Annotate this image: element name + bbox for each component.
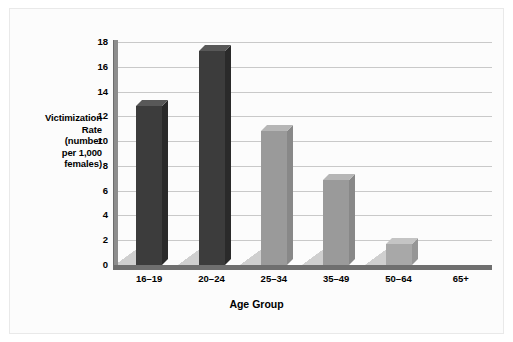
y-axis-tick-label: 16 <box>82 61 108 72</box>
plot-area <box>118 42 492 265</box>
y-axis-tick-label: 18 <box>82 36 108 47</box>
bar <box>323 180 349 265</box>
bar-top-face <box>323 174 355 180</box>
gridline <box>118 92 492 93</box>
bar-top-face <box>386 238 418 244</box>
y-axis-tick-label: 8 <box>82 160 108 171</box>
bar-front-face <box>261 131 287 265</box>
x-axis-tick-labels: 16–1920–2425–3435–4950–6465+ <box>118 273 492 289</box>
y-axis-tick-label: 10 <box>82 135 108 146</box>
bar <box>261 131 287 265</box>
bar-side-face <box>162 100 168 265</box>
bar-side-face <box>225 45 231 265</box>
bar-top-face <box>199 45 231 51</box>
y-axis-tick-label: 12 <box>82 110 108 121</box>
x-axis-line <box>113 265 492 270</box>
bar-side-face <box>349 174 355 265</box>
y-axis-tick-label: 2 <box>82 234 108 245</box>
x-axis-tick-label: 35–49 <box>323 273 349 284</box>
y-axis-tick-label: 6 <box>82 185 108 196</box>
bar-side-face <box>287 125 293 265</box>
x-axis-title: Age Group <box>0 298 513 310</box>
x-axis-tick-label: 65+ <box>453 273 469 284</box>
bar-front-face <box>199 51 225 265</box>
bar <box>199 51 225 265</box>
y-axis-line <box>113 40 118 267</box>
x-axis-tick-label: 16–19 <box>136 273 162 284</box>
bar <box>386 244 412 265</box>
bar-front-face <box>386 244 412 265</box>
gridline <box>118 191 492 192</box>
gridline <box>118 240 492 241</box>
gridline <box>118 166 492 167</box>
y-axis-tick-label: 4 <box>82 209 108 220</box>
bar-front-face <box>136 106 162 265</box>
gridline <box>118 215 492 216</box>
bar <box>136 106 162 265</box>
chart-figure: Victimization Rate (number per 1,000 fem… <box>0 0 513 342</box>
gridline <box>118 141 492 142</box>
y-axis-tick-labels: 024681012141618 <box>80 42 108 265</box>
x-axis-tick-label: 50–64 <box>385 273 411 284</box>
y-axis-tick-label: 14 <box>82 86 108 97</box>
x-axis-tick-label: 20–24 <box>198 273 224 284</box>
y-axis-tick-label: 0 <box>82 259 108 270</box>
gridline <box>118 42 492 43</box>
gridline <box>118 116 492 117</box>
bar-front-face <box>323 180 349 265</box>
gridline <box>118 67 492 68</box>
x-axis-tick-label: 25–34 <box>261 273 287 284</box>
